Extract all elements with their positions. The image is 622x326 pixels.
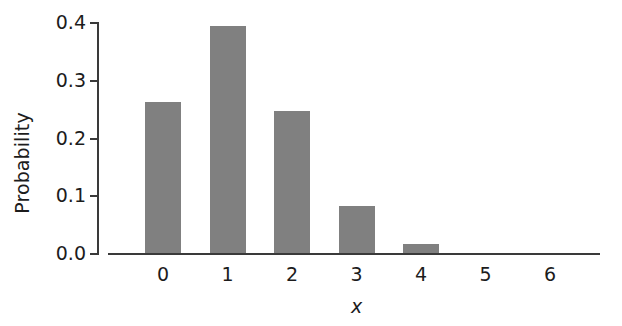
y-tick-mark — [90, 138, 98, 140]
bar — [210, 26, 246, 253]
y-tick-mark — [90, 253, 99, 255]
x-tick-label: 4 — [415, 263, 427, 285]
y-axis-tick-labels: 0.00.10.20.30.4 — [42, 0, 86, 326]
y-tick-label: 0.2 — [42, 127, 86, 149]
y-tick-label: 0.4 — [42, 11, 86, 33]
y-tick-label: 0.3 — [42, 69, 86, 91]
x-tick-label: 0 — [157, 263, 169, 285]
probability-bar-chart: Probability 0.00.10.20.30.4 0123456 x — [0, 0, 622, 326]
y-tick-label: 0.1 — [42, 184, 86, 206]
y-tick-mark — [90, 22, 99, 24]
y-tick-mark — [90, 195, 98, 197]
y-tick-label: 0.0 — [42, 242, 86, 264]
bar — [339, 206, 375, 253]
x-tick-label: 5 — [479, 263, 491, 285]
x-tick-label: 2 — [286, 263, 298, 285]
x-axis-label: x — [351, 295, 362, 317]
bar — [145, 102, 181, 253]
bar — [274, 111, 310, 253]
bar — [403, 244, 439, 253]
x-tick-label: 1 — [221, 263, 233, 285]
y-tick-mark — [90, 80, 98, 82]
y-axis-label: Probability — [0, 0, 44, 326]
x-tick-label: 6 — [544, 263, 556, 285]
x-tick-label: 3 — [350, 263, 362, 285]
x-axis-line — [108, 253, 600, 255]
